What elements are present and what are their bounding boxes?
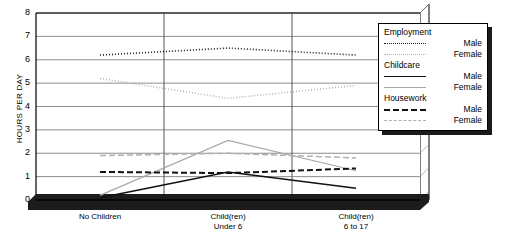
legend-label: Male [426,38,487,49]
legend-swatch-icon [384,72,426,81]
legend-entry: Male [379,104,487,115]
legend-label: Female [426,115,487,126]
legend-label: Male [426,71,487,82]
legend-entry: Female [379,115,487,126]
legend-entry: Female [379,49,487,60]
legend-entry: Male [379,38,487,49]
legend-swatch-icon [384,39,426,48]
legend-group-title: Housework [379,93,487,104]
legend-swatch-icon [384,83,426,92]
line-chart: HOURS PER DAY 876543210 No ChildrenChild… [0,0,511,243]
legend-group-title: Childcare [379,60,487,71]
legend-label: Female [426,82,487,93]
chart-legend: EmploymentMaleFemaleChildcareMaleFemaleH… [378,23,488,131]
legend-label: Male [426,104,487,115]
chart-base-slab [28,194,429,210]
legend-swatch-icon [384,116,426,125]
legend-group-title: Employment [379,27,487,38]
legend-entry: Male [379,71,487,82]
legend-swatch-icon [384,105,426,114]
legend-swatch-icon [384,50,426,59]
legend-entry: Female [379,82,487,93]
legend-label: Female [426,49,487,60]
